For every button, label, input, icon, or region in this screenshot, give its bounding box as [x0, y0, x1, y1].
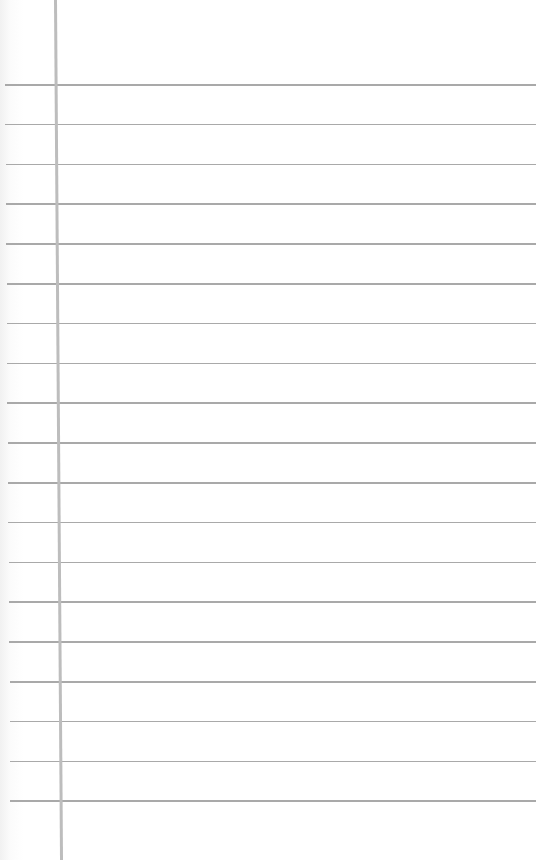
ruled-line [10, 761, 536, 763]
ruled-line [5, 124, 536, 126]
ruled-line [9, 601, 536, 603]
ruled-line [8, 522, 536, 524]
ruled-line [6, 164, 536, 166]
ruled-line [10, 681, 536, 683]
ruled-line [8, 482, 536, 484]
ruled-line [6, 203, 536, 205]
ruled-line [7, 402, 536, 404]
lined-paper [0, 0, 536, 860]
ruled-line [7, 363, 536, 365]
ruled-line [6, 243, 536, 245]
ruled-line [9, 562, 536, 564]
margin-line [54, 0, 63, 860]
ruled-line [7, 323, 536, 325]
ruled-line [8, 442, 536, 444]
ruled-line [10, 800, 536, 802]
ruled-line [5, 84, 536, 86]
ruled-line [7, 283, 536, 285]
ruled-line [10, 721, 536, 723]
ruled-line [9, 641, 536, 643]
